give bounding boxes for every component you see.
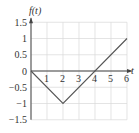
axes <box>29 17 133 120</box>
y-axis-arrow-icon <box>29 17 33 23</box>
y-tick-label: 1 <box>22 33 27 44</box>
x-tick-label: 2 <box>60 73 65 84</box>
x-tick-label: 6 <box>124 73 129 84</box>
y-tick-label: −0.5 <box>9 82 27 93</box>
y-tick-label: −1 <box>16 98 27 109</box>
x-tick-label: 5 <box>108 73 113 84</box>
y-axis-label: f(t) <box>29 5 42 17</box>
x-tick-label: 4 <box>92 73 97 84</box>
y-tick-label: −1.5 <box>9 114 27 125</box>
x-tick-label: 1 <box>44 73 49 84</box>
y-tick-label: 0 <box>22 66 27 77</box>
x-axis-label: t <box>131 65 134 76</box>
y-tick-label: 1.5 <box>15 17 28 28</box>
line-chart: 1234561.510.50−0.5−1−1.5 f(t) t <box>0 0 139 133</box>
y-tick-label: 0.5 <box>15 49 28 60</box>
x-tick-label: 3 <box>76 73 81 84</box>
